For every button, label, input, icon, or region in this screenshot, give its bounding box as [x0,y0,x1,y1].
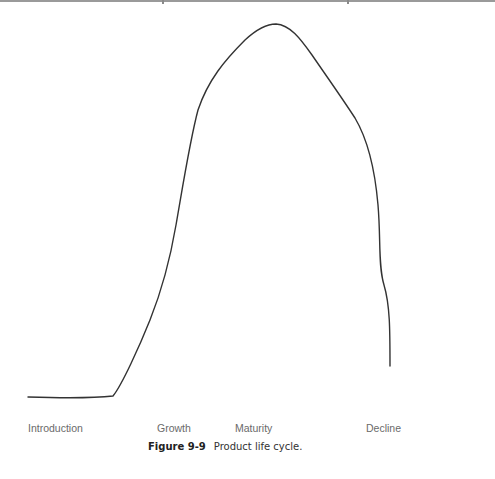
stage-label-introduction: Introduction [28,422,83,434]
figure-number: Figure 9-9 [148,441,206,452]
stage-label-decline: Decline [366,422,401,434]
figure-caption-text: Product life cycle. [214,441,303,452]
stage-label-growth: Growth [157,422,191,434]
figure-caption: Figure 9-9Product life cycle. [148,441,302,452]
life-cycle-curve [0,0,495,479]
stage-label-maturity: Maturity [235,422,272,434]
